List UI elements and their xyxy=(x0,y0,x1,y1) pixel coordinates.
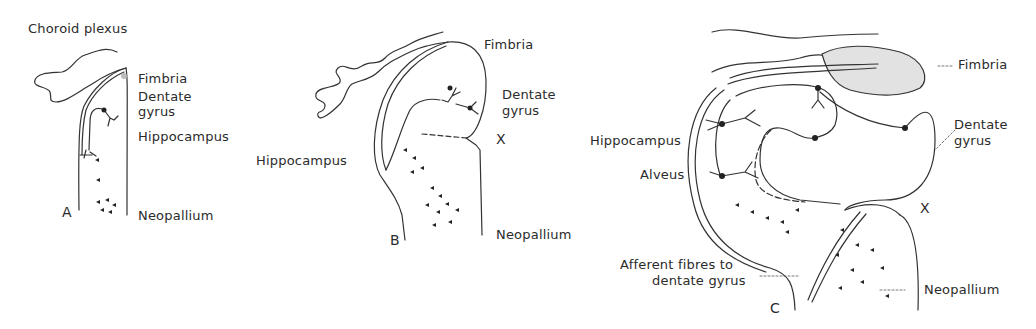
label-afferent-1: Afferent fibres to xyxy=(620,258,733,272)
label-hippocampus-c: Hippocampus xyxy=(590,134,681,148)
label-hippocampus-b: Hippocampus xyxy=(256,154,347,168)
label-neopallium-c: Neopallium xyxy=(924,283,1000,297)
label-dentate-a-2: gyrus xyxy=(138,105,175,119)
x-marker-c: X xyxy=(920,200,930,216)
panel-letter-c: C xyxy=(770,300,780,316)
panel-a-drawing xyxy=(35,49,128,215)
label-choroid-plexus: Choroid plexus xyxy=(28,22,127,36)
label-dentate-c-2: gyrus xyxy=(954,134,991,148)
label-hippocampus-a: Hippocampus xyxy=(138,130,229,144)
x-marker-b: X xyxy=(496,131,506,147)
label-dentate-c-1: Dentate xyxy=(954,118,1008,132)
label-fimbria-b: Fimbria xyxy=(484,38,533,52)
label-neopallium-a: Neopallium xyxy=(138,209,214,223)
panel-letter-a: A xyxy=(62,204,72,220)
label-dentate-b-2: gyrus xyxy=(502,104,539,118)
label-dentate-a-1: Dentate xyxy=(138,90,192,104)
label-dentate-b-1: Dentate xyxy=(502,88,556,102)
label-fimbria-a: Fimbria xyxy=(138,72,187,86)
label-neopallium-b: Neopallium xyxy=(496,228,572,242)
label-afferent-2: dentate gyrus xyxy=(652,274,746,288)
panel-b-drawing xyxy=(316,32,486,240)
panel-letter-b: B xyxy=(390,232,400,248)
label-fimbria-c: Fimbria xyxy=(958,58,1007,72)
label-alveus-c: Alveus xyxy=(640,168,684,182)
